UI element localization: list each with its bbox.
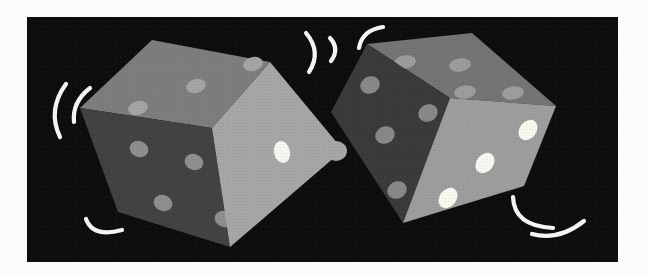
left-die [80,40,347,247]
left-die-front-face-surface [80,108,230,247]
clipart-canvas [0,0,647,275]
right-die [331,33,556,223]
bottom-right-upper-arc [513,197,553,228]
dice-illustration [0,0,647,275]
top-left-arc [306,33,315,72]
left-outer-arc [55,84,66,137]
top-middle-arc [330,38,335,61]
bottom-left-arc [86,219,122,232]
